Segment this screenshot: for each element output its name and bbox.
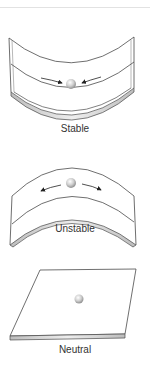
arrow-left-icon	[82, 77, 101, 83]
unstable-label: Unstable	[0, 223, 150, 234]
arrow-right-icon	[41, 78, 62, 83]
neutral-ball	[75, 295, 84, 304]
stable-label: Stable	[0, 123, 150, 134]
unstable-ball	[66, 178, 76, 188]
arrow-left-icon	[41, 185, 61, 191]
stable-ball	[66, 79, 76, 89]
stable-trough	[9, 37, 134, 120]
neutral-plane	[10, 269, 136, 340]
equilibrium-diagram	[0, 0, 150, 368]
arrow-right-icon	[82, 184, 101, 190]
neutral-label: Neutral	[0, 344, 150, 355]
